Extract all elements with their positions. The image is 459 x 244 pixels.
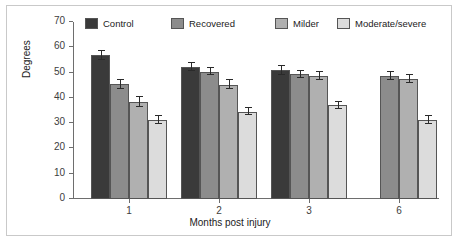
bar[interactable] [328, 105, 347, 199]
bar[interactable] [418, 120, 437, 199]
y-tick: 0 [69, 198, 73, 199]
bar[interactable] [238, 112, 257, 199]
y-tick: 70 [69, 21, 73, 22]
error-bar-cap [297, 77, 304, 78]
bar[interactable] [271, 70, 290, 199]
bar[interactable] [200, 72, 219, 199]
x-tick-label: 6 [387, 205, 411, 216]
x-tick [399, 199, 400, 203]
y-tick-label: 30 [54, 116, 65, 127]
y-tick: 60 [69, 46, 73, 47]
error-bar-cap [297, 70, 304, 71]
plot-area: 010203040506070 1236 [73, 22, 439, 199]
bar[interactable] [290, 74, 309, 199]
bar-group-2 [181, 22, 257, 199]
y-tick: 30 [69, 122, 73, 123]
error-bar-cap [136, 106, 143, 107]
error-bar-cap [207, 74, 214, 75]
y-tick-label: 70 [54, 15, 65, 26]
error-bar-cap [335, 108, 342, 109]
error-bar-cap [387, 71, 394, 72]
y-tick: 40 [69, 97, 73, 98]
bar[interactable] [181, 67, 200, 199]
x-tick-label: 2 [207, 205, 231, 216]
error-bar-cap [245, 107, 252, 108]
error-bar-cap [117, 88, 124, 89]
bar[interactable] [219, 85, 238, 199]
error-bar-cap [335, 101, 342, 102]
bar[interactable] [380, 76, 399, 199]
error-bar-cap [155, 115, 162, 116]
x-tick [129, 199, 130, 203]
error-bar-cap [226, 88, 233, 89]
error-bar-cap [406, 82, 413, 83]
bar[interactable] [148, 120, 167, 199]
bar[interactable] [110, 84, 129, 199]
x-tick-label: 3 [297, 205, 321, 216]
bar-group-6 [361, 22, 437, 199]
error-bar-cap [245, 114, 252, 115]
bar-group-3 [271, 22, 347, 199]
bar[interactable] [309, 76, 328, 199]
y-tick: 20 [69, 147, 73, 148]
y-axis-line [73, 22, 74, 199]
x-tick [219, 199, 220, 203]
y-tick: 10 [69, 173, 73, 174]
y-tick-label: 40 [54, 91, 65, 102]
bar-group-1 [91, 22, 167, 199]
error-bar-cap [316, 71, 323, 72]
error-bar-cap [98, 59, 105, 60]
error-bar-cap [425, 115, 432, 116]
y-tick-label: 50 [54, 66, 65, 77]
y-tick: 50 [69, 72, 73, 73]
error-bar-cap [406, 74, 413, 75]
x-tick-label: 1 [117, 205, 141, 216]
error-bar-cap [278, 65, 285, 66]
error-bar-cap [117, 79, 124, 80]
y-tick-label: 0 [59, 192, 65, 203]
x-axis-title: Months post injury [7, 217, 453, 228]
bar[interactable] [399, 79, 418, 199]
y-tick-label: 10 [54, 167, 65, 178]
error-bar-cap [136, 96, 143, 97]
y-axis-title: Degrees [21, 40, 32, 78]
error-bar-cap [425, 123, 432, 124]
error-bar-cap [387, 79, 394, 80]
error-bar-cap [278, 74, 285, 75]
bar[interactable] [129, 102, 148, 199]
error-bar-cap [155, 123, 162, 124]
y-tick-label: 20 [54, 141, 65, 152]
error-bar-cap [316, 79, 323, 80]
chart-figure: ControlRecoveredMilderModerate/severe De… [6, 5, 452, 236]
error-bar-cap [98, 50, 105, 51]
error-bar-cap [188, 70, 195, 71]
error-bar-cap [207, 67, 214, 68]
y-tick-label: 60 [54, 40, 65, 51]
bar[interactable] [91, 55, 110, 199]
x-tick [309, 199, 310, 203]
error-bar-cap [188, 62, 195, 63]
error-bar-cap [226, 79, 233, 80]
